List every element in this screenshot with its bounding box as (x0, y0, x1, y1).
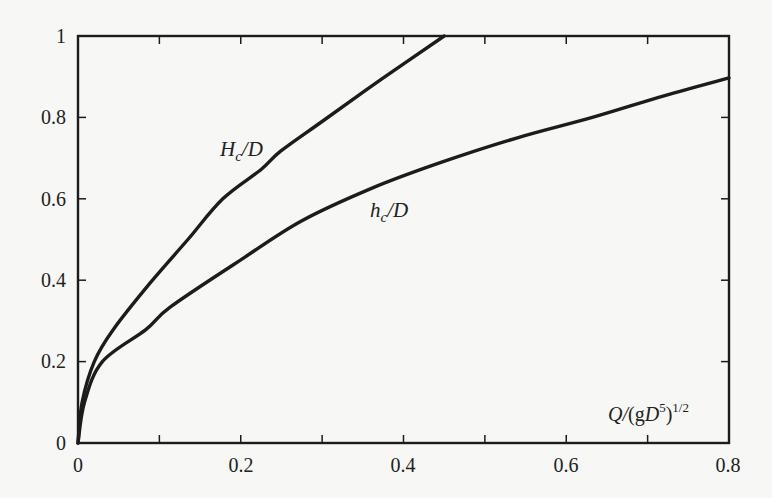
x-tick-labels: 0 0.2 0.4 0.6 0.8 (73, 454, 741, 476)
x-tick-label: 0.6 (554, 454, 579, 476)
axis-ticks (78, 36, 729, 443)
y-tick-label: 0.4 (41, 269, 66, 291)
plot-frame (78, 36, 729, 443)
curve-label-hc: hc/D (370, 198, 408, 225)
y-tick-label: 0.8 (41, 106, 66, 128)
y-tick-label: 0 (56, 432, 66, 454)
x-tick-label: 0.4 (391, 454, 416, 476)
y-tick-label: 1 (56, 25, 66, 47)
curve-Hc-over-D (78, 36, 444, 443)
y-tick-labels: 0 0.2 0.4 0.6 0.8 1 (41, 25, 66, 454)
x-axis-title: Q/(gD5)1/2 (608, 400, 689, 426)
y-tick-label: 0.2 (41, 350, 66, 372)
x-tick-label: 0.2 (229, 454, 254, 476)
x-tick-label: 0.8 (716, 454, 741, 476)
curve-hc-over-D (78, 78, 729, 443)
curves (78, 36, 729, 443)
curve-label-Hc: Hc/D (219, 137, 263, 164)
y-tick-label: 0.6 (41, 188, 66, 210)
chart: 0 0.2 0.4 0.6 0.8 0 0.2 0.4 0.6 0.8 1 Hc… (0, 0, 772, 498)
x-tick-label: 0 (73, 454, 83, 476)
